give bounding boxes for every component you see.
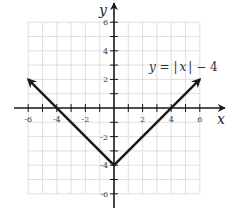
y-tick-label: 4 [103, 47, 108, 56]
y-tick-label: 2 [103, 75, 108, 84]
x-tick-label: -4 [53, 115, 61, 124]
y-tick-label: 6 [103, 18, 108, 27]
x-tick-label: -6 [24, 115, 32, 124]
y-tick-label: -4 [100, 161, 108, 170]
x-axis-label: x [217, 111, 225, 127]
x-tick-label: 2 [140, 115, 145, 124]
axes [14, 3, 225, 208]
y-tick-label: -2 [100, 133, 108, 142]
x-tick-label: 4 [169, 115, 174, 124]
y-axis-label: y [98, 2, 108, 18]
equation-label: y = |x| − 4 [148, 60, 218, 74]
x-tick-label: -2 [82, 115, 90, 124]
graph-container: -6-4-2246642-2-4-6 x y y = |x| − 4 [0, 0, 232, 208]
y-tick-label: -6 [100, 190, 108, 199]
coordinate-plane: -6-4-2246642-2-4-6 x y y = |x| − 4 [0, 0, 232, 208]
x-tick-label: 6 [197, 115, 202, 124]
